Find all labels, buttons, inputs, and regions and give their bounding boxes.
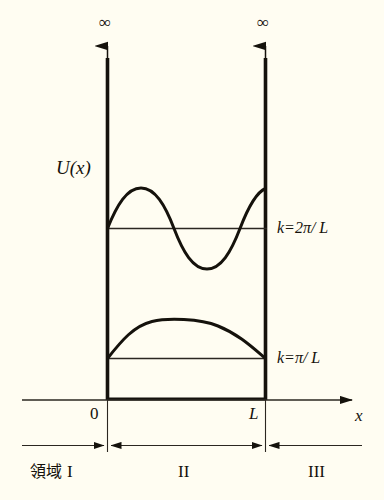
region-3-label: III [308, 463, 325, 480]
region-2-label: II [178, 463, 189, 480]
infinity-arrows [108, 46, 266, 80]
figure-canvas: ∞ ∞ U(x) k=2π/ L k=π/ L 0 L x 領域I II III [0, 0, 384, 500]
region-1-numeral: I [67, 462, 73, 481]
wavefunction-n1 [108, 319, 266, 358]
origin-label: 0 [90, 405, 99, 422]
region-1-label: 領域I [30, 463, 73, 480]
k-label-n2: k=2π/ L [277, 220, 328, 236]
region-1-prefix: 領域 [30, 462, 62, 481]
potential-function-label: U(x) [56, 158, 91, 177]
x-axis-label: x [355, 407, 363, 424]
k-label-n1: k=π/ L [277, 350, 320, 366]
right-infinity-symbol: ∞ [257, 14, 269, 31]
left-infinity-symbol: ∞ [99, 14, 111, 31]
potential-well-diagram [0, 0, 384, 500]
well-width-label: L [249, 405, 258, 422]
wall-tick-guides [108, 400, 266, 452]
